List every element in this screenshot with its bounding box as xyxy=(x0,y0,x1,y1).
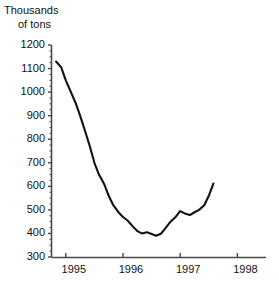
x-axis-major-ticks xyxy=(66,253,238,257)
plot-area xyxy=(0,0,279,291)
chart-container: Thousands of tons 1200110010009008007006… xyxy=(0,0,279,291)
axes xyxy=(48,45,266,258)
data-series-line xyxy=(56,61,213,235)
